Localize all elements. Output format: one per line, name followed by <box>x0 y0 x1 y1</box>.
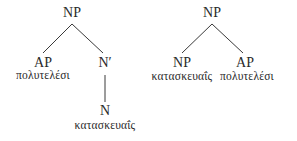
left-nbar-label: N′ <box>98 56 111 70</box>
right-np-label: NP <box>173 56 191 70</box>
right-ap-word: πολυτελέσι <box>220 71 274 83</box>
right-np-word: κατασκευαΐς <box>152 71 213 83</box>
left-ap-label: AP <box>34 56 52 70</box>
edge-np-np-right <box>182 24 212 53</box>
left-n-label: N <box>100 104 110 118</box>
left-ap-word: πολυτελέσι <box>16 70 70 82</box>
edge-np-ap-right <box>212 24 243 53</box>
edge-np-ap-left <box>43 24 72 53</box>
right-ap-label: AP <box>236 56 254 70</box>
left-root-np-label: NP <box>63 6 81 20</box>
left-n-word: κατασκευαΐς <box>75 120 136 132</box>
right-root-np-label: NP <box>203 6 221 20</box>
syntax-tree-diagram: NP AP πολυτελέσι N′ N κατασκευαΐς NP NP … <box>0 0 297 141</box>
edge-np-nbar-left <box>72 24 103 53</box>
